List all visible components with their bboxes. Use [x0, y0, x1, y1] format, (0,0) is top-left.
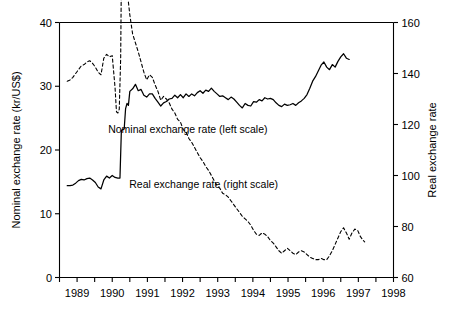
left-axis-title: Nominal exchange rate (kr/US$) — [10, 71, 22, 228]
real-series-label: Real exchange rate (right scale) — [129, 178, 278, 190]
exchange-rate-figure: 0102030406080100120140160198919901991199… — [0, 0, 453, 312]
xtick-label: 1993 — [205, 287, 229, 299]
xtick-label: 1997 — [346, 287, 370, 299]
xtick-label: 1991 — [135, 287, 159, 299]
left-ytick-label: 40 — [40, 17, 52, 29]
xtick-label: 1998 — [381, 287, 405, 299]
left-ytick-label: 0 — [46, 272, 52, 284]
right-ytick-label: 60 — [402, 272, 414, 284]
xtick-label: 1989 — [65, 287, 89, 299]
right-axis-title: Real exchange rate — [426, 102, 438, 197]
left-ytick-label: 10 — [40, 208, 52, 220]
nominal-exchange-rate-line — [67, 54, 349, 189]
right-ytick-label: 100 — [402, 170, 420, 182]
exchange-rate-chart: 0102030406080100120140160198919901991199… — [0, 0, 453, 312]
xtick-label: 1994 — [241, 287, 265, 299]
nominal-series-label: Nominal exchange rate (left scale) — [108, 123, 267, 135]
right-ytick-label: 120 — [402, 119, 420, 131]
left-ytick-label: 30 — [40, 80, 52, 92]
xtick-label: 1990 — [100, 287, 124, 299]
right-ytick-label: 80 — [402, 221, 414, 233]
xtick-label: 1996 — [311, 287, 335, 299]
right-ytick-label: 140 — [402, 68, 420, 80]
xtick-label: 1992 — [170, 287, 194, 299]
xtick-label: 1995 — [276, 287, 300, 299]
right-ytick-label: 160 — [402, 17, 420, 29]
left-ytick-label: 20 — [40, 144, 52, 156]
